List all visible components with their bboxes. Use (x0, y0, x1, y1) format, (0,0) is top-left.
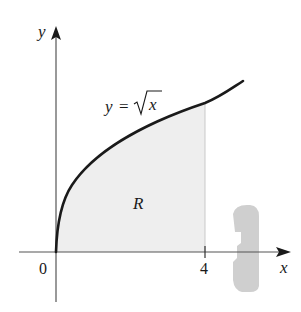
equation-radicand: x (148, 95, 157, 114)
origin-label: 0 (39, 260, 47, 277)
region-label: R (132, 194, 144, 213)
sqrt-radical-icon (134, 91, 162, 114)
equation-label: y = x (103, 91, 162, 116)
diagram-canvas: y x 0 4 R y = x (0, 0, 301, 312)
x-tick-label-4: 4 (200, 260, 208, 277)
rotation-arrow-icon (233, 205, 259, 292)
equation-equals: = (119, 97, 129, 116)
x-axis-label: x (279, 258, 288, 277)
equation-y: y (103, 97, 113, 116)
y-axis-label: y (36, 22, 46, 41)
